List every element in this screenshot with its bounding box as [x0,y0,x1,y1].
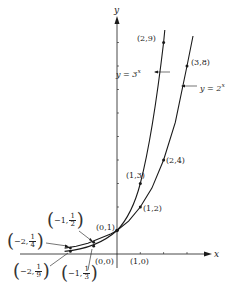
point-2-4 [162,159,165,162]
curve-label-3x-exp: x [137,67,140,74]
point-0-1 [115,229,119,233]
label-m2-quarter: (−2,14) [7,232,44,250]
curve-label-2x-text: y = 2 [200,84,221,93]
point-2-9 [162,41,165,44]
point-m2-quarter [69,247,72,250]
x-axis-label: x [214,250,219,259]
y-axis-arrow-icon [115,16,120,24]
label-3-8: (3,8) [191,59,210,67]
point-m1-half [92,241,95,244]
label-1-2: (1,2) [143,205,162,213]
exponential-graph [0,0,237,301]
y-axis-label: y [114,6,119,15]
label-0-1: (0,1) [96,224,115,232]
curve-label-3x: y = 3x [116,68,141,79]
curve-label-2x: y = 2x [200,82,225,93]
point-1-3 [139,182,142,185]
leader-lines [46,72,197,270]
x-axis-arrow-icon [204,252,212,257]
label-1-3: (1,3) [126,172,145,180]
label-2-4: (2,4) [166,157,185,165]
label-m1-third: (−1,13) [61,264,98,282]
x-unit-label: (1,0) [130,258,149,266]
point-m1-third [92,245,95,248]
label-2-9: (2,9) [137,35,156,43]
label-m1-half: (−1,12) [47,211,84,229]
curve-label-3x-text: y = 3 [116,70,137,79]
label-m2-ninth: (−2,19) [13,262,50,280]
point-m2-ninth [69,250,72,253]
curve-label-2x-exp: x [221,81,224,88]
point-1-2 [139,206,142,209]
point-3-8 [186,65,189,68]
